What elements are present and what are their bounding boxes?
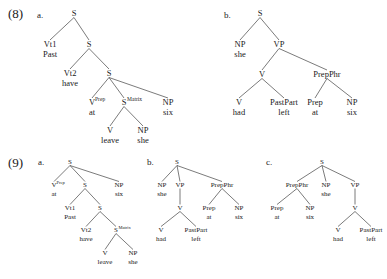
tree-node-category: Vt2 [64, 68, 77, 78]
tree-branch [262, 49, 279, 71]
tree-node-word: at [274, 213, 279, 221]
tree-node-category: S [258, 8, 263, 18]
syntax-tree-figure-page: (8)a.SVt1PastSVt2haveSVPrepatSMatrixNPsi… [0, 0, 387, 279]
tree-node-superscript: Matrix [127, 96, 142, 102]
tree-node-word: six [235, 213, 244, 221]
tree-node-category: NP [163, 97, 174, 107]
tree-node-category: Vt2 [81, 226, 92, 234]
tree-node-category: NP [322, 181, 331, 189]
tree-node-category: NP [115, 181, 124, 189]
tree-branch [260, 18, 279, 41]
tree-branch [74, 18, 89, 41]
tree-node-category: Vt1 [44, 39, 57, 49]
tree-branch [279, 49, 327, 71]
tree-node-word: had [333, 235, 344, 243]
tree-letter-label: a. [37, 10, 43, 20]
tree-branch [327, 79, 352, 99]
tree-node-category: NP [347, 97, 358, 107]
tree-node-category: S [122, 97, 127, 107]
tree-node-category: S [72, 8, 77, 18]
tree-node-category: PastPart [360, 226, 383, 234]
tree-node-category: V [177, 204, 182, 212]
tree-node-category: VP [176, 181, 185, 189]
tree-node-word: left [278, 107, 290, 117]
tree-node-category: PastPart [185, 226, 208, 234]
tree-letter-label: c. [266, 157, 272, 167]
tree-node-word: have [79, 235, 92, 243]
tree-node-category: VP [274, 39, 285, 49]
tree-node-category: S [83, 181, 87, 189]
tree-branch [297, 189, 310, 205]
tree-node-word: leave [101, 135, 119, 145]
example-number: (8) [8, 6, 23, 21]
tree-branch [50, 18, 74, 41]
tree-branch [86, 212, 100, 227]
tree-node-word: six [163, 107, 174, 117]
example-number: (9) [8, 155, 23, 170]
tree-letter-label: b. [224, 10, 231, 20]
tree-node-word: six [115, 190, 124, 198]
tree-node-category: V [236, 97, 243, 107]
tree-branch [322, 166, 355, 182]
tree-branch [109, 78, 168, 99]
tree-node-word: she [321, 190, 330, 198]
tree-branch [70, 49, 89, 70]
tree-node-word: leave [98, 258, 113, 266]
tree-letter-label: b. [147, 157, 154, 167]
tree-node-word: Past [64, 213, 76, 221]
tree-node-word: she [157, 190, 166, 198]
tree-node-word: at [312, 107, 319, 117]
tree-node-word: at [51, 190, 56, 198]
tree-branch [222, 189, 239, 205]
tree-node-category: Prep [307, 97, 323, 107]
syntax-tree: SNPsheVPPrepPhrVPrepatNPsixVhadPastPartl… [156, 158, 244, 243]
tree-node-category: Prep [203, 204, 216, 212]
tree-node-word: left [191, 235, 200, 243]
tree-branch [161, 212, 180, 227]
tree-node-word: have [62, 78, 78, 88]
tree-node-category: NP [235, 39, 246, 49]
tree-branch [110, 107, 124, 127]
tree-branch [124, 107, 143, 127]
tree-node-category: S [87, 39, 92, 49]
tree-node-category: V [335, 226, 340, 234]
tree-node-word: had [156, 235, 167, 243]
tree-node-word: she [234, 49, 246, 59]
syntax-tree: SNPsheVPVPrepPhrVhadPastPartleftPrepatNP… [233, 8, 358, 117]
tree-node-category: NP [138, 125, 149, 135]
tree-branch [177, 166, 180, 182]
tree-node-category: S [175, 158, 179, 166]
tree-branch [262, 79, 284, 99]
tree-letter-label: a. [38, 157, 44, 167]
tree-node-category: S [98, 204, 102, 212]
tree-branch [92, 78, 109, 99]
tree-branch [109, 78, 124, 99]
syntax-tree: SVPrepatSNPsixVt1PastSVt2haveSMatrixVlea… [51, 158, 137, 266]
tree-branch [105, 234, 116, 250]
tree-node-category: S [107, 68, 112, 78]
tree-node-category: Prep [271, 204, 284, 212]
tree-branch [116, 234, 133, 250]
tree-branch [315, 79, 327, 99]
tree-branch [239, 79, 262, 99]
tree-node-category: VP [351, 181, 360, 189]
tree-branch [180, 212, 196, 227]
tree-node-word: at [206, 213, 211, 221]
tree-branch [162, 166, 177, 182]
tree-node-superscript: Prep [95, 96, 105, 102]
tree-node-category: S [68, 158, 72, 166]
tree-node-category: PrepPhr [286, 181, 309, 189]
tree-diagram-canvas: (8)a.SVt1PastSVt2haveSVPrepatSMatrixNPsi… [0, 0, 387, 279]
tree-node-word: six [306, 213, 315, 221]
tree-node-category: PrepPhr [313, 69, 341, 79]
tree-branch [322, 166, 326, 182]
tree-node-category: V [352, 204, 357, 212]
tree-node-word: left [366, 235, 375, 243]
tree-node-category: NP [158, 181, 167, 189]
tree-node-category: PrepPhr [211, 181, 234, 189]
tree-node-category: NP [129, 249, 138, 257]
tree-node-category: V [158, 226, 163, 234]
tree-node-word: six [347, 107, 358, 117]
tree-node-category: V [102, 249, 107, 257]
tree-branch [240, 18, 260, 41]
